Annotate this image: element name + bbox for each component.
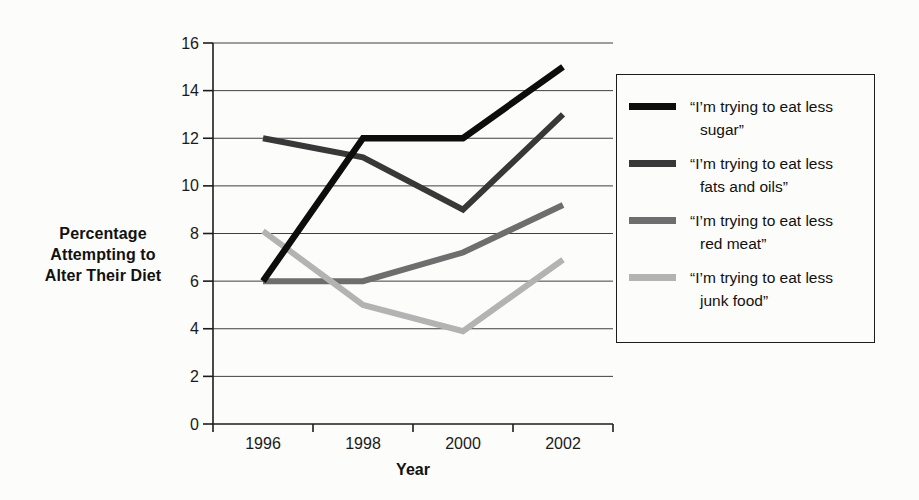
y-tick-label: 14 <box>181 82 199 99</box>
legend-entry-red-meat: “I’m trying to eat lessred meat” <box>629 209 868 255</box>
legend-label: “I’m trying to eat lesssugar” <box>690 95 833 141</box>
legend-entry-sugar: “I’m trying to eat lesssugar” <box>629 95 868 141</box>
legend-swatch-junk-food <box>629 274 676 281</box>
y-tick-label: 4 <box>190 320 199 337</box>
y-tick-label: 2 <box>190 368 199 385</box>
x-tick-label: 2002 <box>545 435 581 452</box>
y-tick-label: 16 <box>181 35 199 52</box>
figure: 02468101214161996199820002002 Percentage… <box>0 0 919 500</box>
x-tick-label: 2000 <box>445 435 481 452</box>
y-axis-title-line: Attempting to <box>14 244 192 265</box>
x-tick-label: 1998 <box>345 435 381 452</box>
y-axis-title-line: Alter Their Diet <box>14 265 192 286</box>
legend: “I’m trying to eat lesssugar”“I’m trying… <box>616 74 875 343</box>
legend-label: “I’m trying to eat lessjunk food” <box>690 266 833 312</box>
x-tick-label: 1996 <box>245 435 281 452</box>
y-tick-label: 0 <box>190 416 199 433</box>
legend-label-line: “I’m trying to eat less <box>690 95 833 118</box>
x-axis-title: Year <box>213 461 613 479</box>
legend-label: “I’m trying to eat lessfats and oils” <box>690 152 833 198</box>
series-line-fats-and-oils <box>263 114 563 209</box>
legend-label-line: “I’m trying to eat less <box>690 209 833 232</box>
legend-swatch-red-meat <box>629 217 676 224</box>
legend-label-line: junk food” <box>690 289 833 312</box>
legend-swatch-fats-and-oils <box>629 160 676 167</box>
legend-label-line: “I’m trying to eat less <box>690 266 833 289</box>
y-axis-title-line: Percentage <box>14 223 192 244</box>
legend-label-line: sugar” <box>690 118 833 141</box>
legend-label-line: fats and oils” <box>690 175 833 198</box>
legend-swatch-sugar <box>629 103 676 110</box>
legend-entry-junk-food: “I’m trying to eat lessjunk food” <box>629 266 868 312</box>
y-tick-label: 12 <box>181 130 199 147</box>
legend-label-line: red meat” <box>690 232 833 255</box>
y-tick-label: 10 <box>181 177 199 194</box>
series-line-sugar <box>263 67 563 281</box>
legend-entry-fats-and-oils: “I’m trying to eat lessfats and oils” <box>629 152 868 198</box>
y-axis-title: Percentage Attempting to Alter Their Die… <box>14 223 192 286</box>
legend-label-line: “I’m trying to eat less <box>690 152 833 175</box>
legend-label: “I’m trying to eat lessred meat” <box>690 209 833 255</box>
